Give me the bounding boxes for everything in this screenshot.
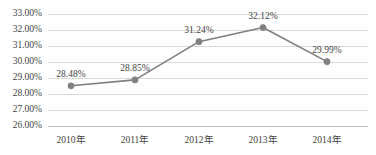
chart-canvas: 33.00%32.00%31.00%30.00%29.00%28.00%27.0… <box>0 0 376 155</box>
y-axis-tick-label: 28.00% <box>13 88 42 98</box>
y-axis-tick-label: 30.00% <box>13 56 42 66</box>
data-point-label: 31.24% <box>184 25 213 35</box>
y-axis-tick-label: 27.00% <box>13 104 42 114</box>
data-point-marker <box>132 77 138 83</box>
y-axis-tick-label: 26.00% <box>13 120 42 130</box>
x-axis-tick-label: 2014年 <box>313 134 342 145</box>
y-axis-tick-label: 29.00% <box>13 72 42 82</box>
data-point-label: 32.12% <box>248 11 277 21</box>
y-axis-tick-label: 32.00% <box>13 24 42 34</box>
x-axis-tick-label: 2013年 <box>249 134 278 145</box>
y-axis-tick-label: 31.00% <box>13 40 42 50</box>
x-axis-tick-label: 2010年 <box>57 134 86 145</box>
line-chart: 33.00%32.00%31.00%30.00%29.00%28.00%27.0… <box>0 0 376 155</box>
data-point-marker <box>324 59 330 65</box>
data-point-marker <box>260 24 266 30</box>
data-point-label: 28.48% <box>56 69 85 79</box>
data-point-marker <box>196 39 202 45</box>
x-axis-tick-label: 2012年 <box>185 134 214 145</box>
data-point-label: 29.99% <box>312 45 341 55</box>
x-axis-tick-label: 2011年 <box>121 134 150 145</box>
data-point-label: 28.85% <box>120 63 149 73</box>
data-point-marker <box>68 83 74 89</box>
y-axis-tick-label: 33.00% <box>13 8 42 18</box>
